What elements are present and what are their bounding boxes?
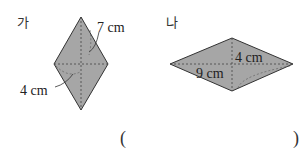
answer-open-paren: ( bbox=[120, 128, 126, 149]
measure-na-9cm: 9 cm bbox=[196, 66, 224, 81]
measure-ga-4cm: 4 cm bbox=[20, 83, 48, 98]
answer-close-paren: ) bbox=[293, 128, 299, 149]
measure-ga-7cm: 7 cm bbox=[97, 20, 125, 35]
measure-na-4cm: 4 cm bbox=[235, 50, 263, 65]
figures-canvas: 7 cm 4 cm 4 cm 9 cm bbox=[0, 0, 308, 159]
rhombus-na bbox=[170, 38, 293, 91]
